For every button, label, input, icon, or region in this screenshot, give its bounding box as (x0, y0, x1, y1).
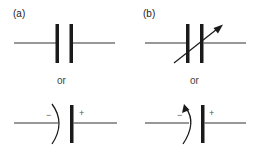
arrowhead-icon (214, 25, 224, 34)
panel-a-or-label: or (57, 76, 66, 86)
panel-b-positive-sign: + (209, 109, 214, 118)
panel-b-label: (b) (143, 9, 155, 19)
variable-polarized-capacitor-symbol (145, 104, 246, 144)
panel-b-or-label: or (190, 76, 199, 86)
panel-a-label: (a) (13, 9, 25, 19)
panel-b-negative-sign: − (177, 111, 182, 120)
capacitor-symbols-drawing (0, 0, 256, 159)
fixed-capacitor-symbol (14, 24, 115, 63)
variable-capacitor-symbol (145, 24, 246, 63)
panel-a-positive-sign: + (79, 109, 84, 118)
panel-a-negative-sign: − (46, 111, 51, 120)
polarized-capacitor-symbol (14, 104, 117, 144)
